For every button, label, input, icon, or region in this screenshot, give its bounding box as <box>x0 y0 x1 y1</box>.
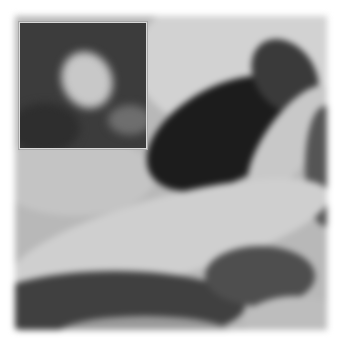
zoom-inset <box>19 22 147 149</box>
dark-corner <box>19 103 80 149</box>
faint-blob <box>108 105 147 135</box>
